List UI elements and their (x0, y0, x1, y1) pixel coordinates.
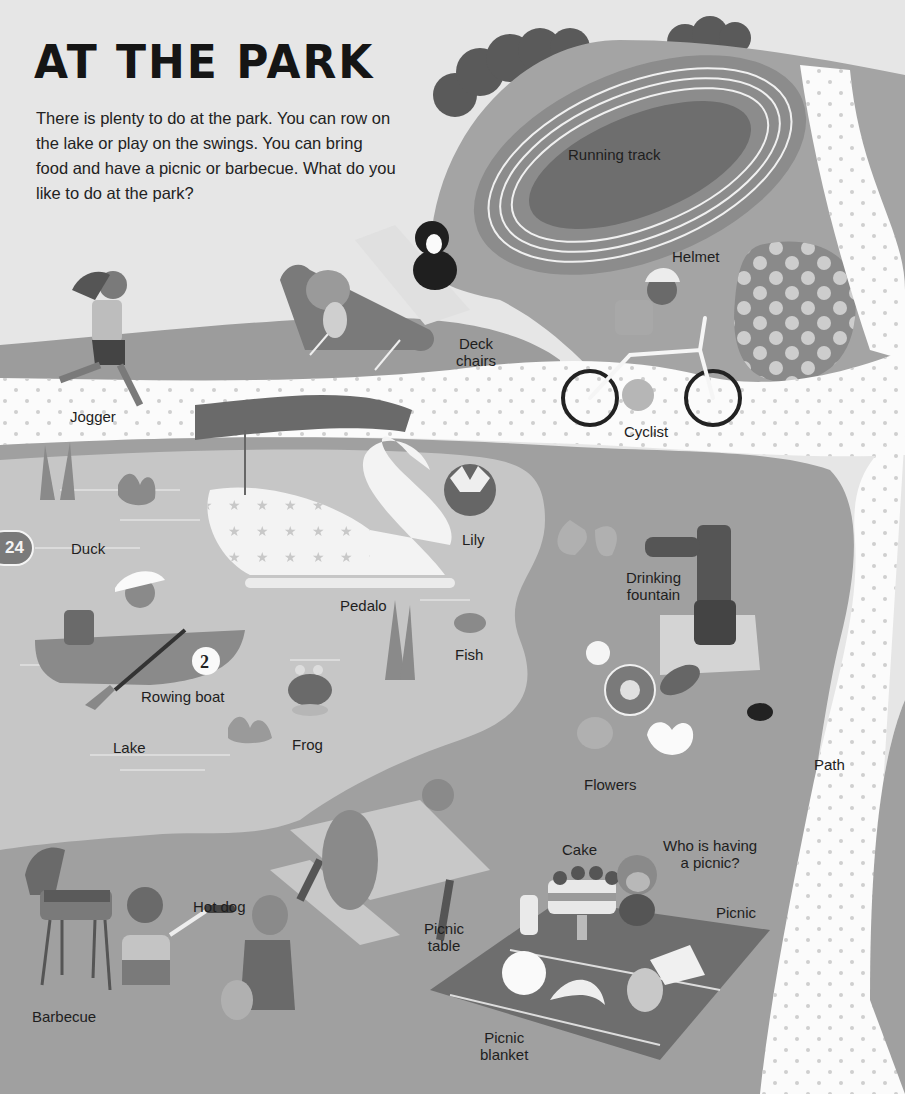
page-title: AT THE PARK (34, 35, 374, 89)
label-running-track: Running track (568, 146, 661, 163)
boat-number: 2 (200, 652, 209, 672)
label-frog: Frog (292, 736, 323, 753)
label-helmet: Helmet (672, 248, 720, 265)
label-lily: Lily (462, 531, 485, 548)
label-lake: Lake (113, 739, 146, 756)
label-duck: Duck (71, 540, 105, 557)
label-jogger: Jogger (70, 408, 116, 425)
label-pedalo: Pedalo (340, 597, 387, 614)
label-cake: Cake (562, 841, 597, 858)
label-hot-dog: Hot dog (193, 898, 246, 915)
page-number: 24 (5, 538, 24, 558)
label-drinking-fountain: Drinking fountain (626, 569, 681, 603)
label-fish: Fish (455, 646, 483, 663)
intro-paragraph: There is plenty to do at the park. You c… (36, 106, 396, 206)
label-picnic: Picnic (716, 904, 756, 921)
lily-leaves (118, 474, 155, 505)
label-barbecue: Barbecue (32, 1008, 96, 1025)
label-cyclist: Cyclist (624, 423, 668, 440)
label-rowing-boat: Rowing boat (141, 688, 224, 705)
label-path: Path (814, 756, 845, 773)
label-picnic-blanket: Picnic blanket (480, 1029, 528, 1063)
label-who-is-having-a-picnic: Who is having a picnic? (663, 837, 757, 871)
fish-shape (454, 613, 486, 633)
label-deck-chairs: Deck chairs (456, 335, 496, 369)
label-picnic-table: Picnic table (424, 920, 464, 954)
label-flowers: Flowers (584, 776, 637, 793)
